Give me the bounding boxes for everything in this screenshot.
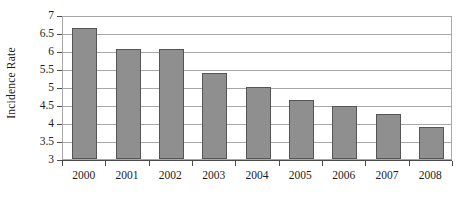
- y-axis-tick-label: 4: [14, 118, 54, 130]
- bar-2001: [116, 49, 141, 159]
- bar-2006: [332, 106, 357, 159]
- y-axis-tick-label: 6.5: [14, 28, 54, 40]
- plot-area: [62, 16, 452, 160]
- x-axis-tick: [409, 161, 410, 166]
- y-axis-tick: [57, 70, 62, 71]
- y-axis-tick: [57, 34, 62, 35]
- bar-2003: [202, 73, 227, 159]
- y-axis-tick: [57, 88, 62, 89]
- bar-2005: [289, 100, 314, 159]
- y-axis-tick-label: 5.5: [14, 64, 54, 76]
- x-axis-tick: [452, 161, 453, 166]
- x-axis-tick: [62, 161, 63, 166]
- x-axis-tick: [149, 161, 150, 166]
- y-axis-tick-label: 6: [14, 46, 54, 58]
- y-axis-tick-label: 4.5: [14, 100, 54, 112]
- y-axis-tick: [57, 142, 62, 143]
- x-axis-tick: [279, 161, 280, 166]
- y-axis-tick: [57, 16, 62, 17]
- y-axis-tick-label: 3: [14, 154, 54, 166]
- x-axis-tick: [365, 161, 366, 166]
- bar-2008: [419, 127, 444, 159]
- bar-2004: [246, 87, 271, 159]
- y-axis-tick: [57, 106, 62, 107]
- y-axis-tick-label: 3.5: [14, 136, 54, 148]
- x-axis-line: [62, 160, 452, 161]
- x-axis-tick: [105, 161, 106, 166]
- bar-chart: Incidence Rate 76.565.554.543.53 2000200…: [0, 0, 465, 199]
- y-axis-tick: [57, 52, 62, 53]
- bar-2000: [72, 28, 97, 159]
- bar-2002: [159, 49, 184, 159]
- bar-2007: [376, 114, 401, 159]
- x-axis-tick: [322, 161, 323, 166]
- y-axis-tick-label: 5: [14, 82, 54, 94]
- y-axis-tick: [57, 124, 62, 125]
- x-axis-tick: [192, 161, 193, 166]
- gridline: [63, 34, 451, 35]
- x-axis-tick: [235, 161, 236, 166]
- y-axis-tick-label: 7: [14, 10, 54, 22]
- x-axis-tick-label: 2008: [405, 170, 455, 182]
